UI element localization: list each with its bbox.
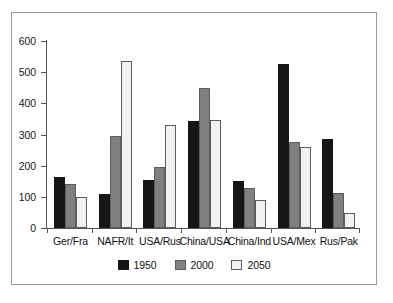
bar-group [322,41,355,228]
bar-rus-pak-2050 [344,213,355,228]
bar-usa-mex-1950 [278,64,289,228]
x-axis-tick [47,228,48,233]
plot-area [46,41,356,228]
bar-group [278,41,311,228]
bar-china-ind-1950 [233,181,244,228]
bar-nafr-it-2050 [121,61,132,228]
y-axis-tick-label: 300 [19,129,36,141]
x-axis-tick [359,228,360,233]
legend-item-1950: 1950 [118,259,157,271]
y-axis-tick-label: 600 [19,35,36,47]
x-axis-line [46,228,359,229]
bar-usa-mex-2050 [300,147,311,228]
y-axis-tick-label: 100 [19,191,36,203]
bar-china-usa-2000 [199,88,210,228]
chart-frame: 0100200300400500600 Ger/FraNAFR/ItUSA/Ru… [11,12,377,285]
bar-ger-fra-2050 [76,197,87,228]
legend-swatch-1950 [118,260,129,270]
bar-usa-rus-1950 [143,180,154,228]
bar-china-ind-2000 [244,188,255,228]
bar-nafr-it-1950 [99,194,110,228]
bar-china-usa-2050 [210,120,221,228]
legend-swatch-2000 [175,260,186,270]
bar-group [233,41,266,228]
x-axis-tick [136,228,137,233]
bar-rus-pak-1950 [322,139,333,228]
bar-group [188,41,221,228]
x-axis-tick [226,228,227,233]
y-axis-tick-label: 0 [30,222,36,234]
x-axis-tick [92,228,93,233]
bar-usa-mex-2000 [289,142,300,228]
legend-label-2050: 2050 [247,259,270,271]
x-axis-tick [181,228,182,233]
legend-item-2000: 2000 [175,259,214,271]
bar-ger-fra-2000 [65,184,76,228]
y-axis-tick-label: 500 [19,66,36,78]
bar-ger-fra-1950 [54,177,65,228]
bar-nafr-it-2000 [110,136,121,228]
bar-group [54,41,87,228]
bar-usa-rus-2050 [165,125,176,228]
bar-china-ind-2050 [255,200,266,228]
chart-legend: 195020002050 [12,259,376,271]
x-axis-label-rus-pak: Rus/Pak [299,235,379,247]
x-axis-tick [271,228,272,233]
x-axis-tick [315,228,316,233]
legend-swatch-2050 [231,260,242,270]
bar-group [143,41,176,228]
bar-rus-pak-2000 [333,193,344,228]
y-axis-tick-label: 400 [19,97,36,109]
bar-usa-rus-2000 [154,167,165,228]
legend-label-1950: 1950 [134,259,157,271]
bar-group [99,41,132,228]
legend-item-2050: 2050 [231,259,270,271]
bar-china-usa-1950 [188,121,199,228]
y-axis-tick-label: 200 [19,160,36,172]
legend-label-2000: 2000 [191,259,214,271]
